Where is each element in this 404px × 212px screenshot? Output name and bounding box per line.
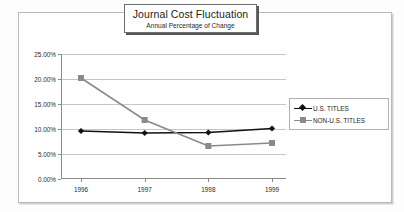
x-axis-tick bbox=[272, 179, 273, 182]
chart-title: Journal Cost Fluctuation bbox=[133, 8, 249, 20]
legend-item-us-titles[interactable]: U.S. TITLES bbox=[294, 102, 385, 114]
x-axis-tick bbox=[145, 179, 146, 182]
chart-subtitle: Annual Percentage of Change bbox=[146, 21, 234, 30]
data-point-marker bbox=[269, 140, 275, 146]
chart-screenshot: 0.00%5.00%10.00%15.00%20.00%25.00% 19961… bbox=[0, 0, 404, 212]
y-axis-tick-label: 10.00% bbox=[34, 126, 56, 133]
data-point-marker bbox=[142, 130, 148, 136]
legend-item-non-us-titles[interactable]: NON-U.S. TITLES bbox=[294, 114, 385, 126]
data-point-marker bbox=[78, 75, 84, 81]
x-axis-tick bbox=[81, 179, 82, 182]
data-point-marker bbox=[205, 129, 211, 135]
chart-legend: U.S. TITLES NON-U.S. TITLES bbox=[289, 98, 389, 130]
chart-title-box: Journal Cost Fluctuation Annual Percenta… bbox=[124, 4, 257, 33]
x-axis-tick-label: 1999 bbox=[265, 186, 279, 193]
y-axis-tick-label: 5.00% bbox=[38, 151, 56, 158]
y-axis-tick-label: 25.00% bbox=[34, 51, 56, 58]
legend-marker-diamond-icon bbox=[294, 104, 312, 113]
y-axis-tick-label: 0.00% bbox=[38, 176, 56, 183]
x-axis-tick-label: 1997 bbox=[138, 186, 152, 193]
x-axis-tick-label: 1996 bbox=[74, 186, 88, 193]
x-axis-tick bbox=[208, 179, 209, 182]
series-lines bbox=[61, 54, 286, 179]
legend-label-us-titles: U.S. TITLES bbox=[313, 105, 349, 112]
legend-label-non-us-titles: NON-U.S. TITLES bbox=[313, 117, 365, 124]
y-axis-tick bbox=[58, 179, 61, 180]
data-point-marker bbox=[205, 143, 211, 149]
plot-area: 0.00%5.00%10.00%15.00%20.00%25.00% 19961… bbox=[61, 54, 286, 179]
legend-marker-square-icon bbox=[294, 116, 312, 125]
y-axis-tick-label: 15.00% bbox=[34, 101, 56, 108]
data-point-marker bbox=[142, 117, 148, 123]
x-axis-tick-label: 1998 bbox=[201, 186, 215, 193]
y-axis-tick-label: 20.00% bbox=[34, 76, 56, 83]
series-line bbox=[81, 78, 272, 146]
data-point-marker bbox=[78, 128, 84, 134]
data-point-marker bbox=[269, 125, 275, 131]
